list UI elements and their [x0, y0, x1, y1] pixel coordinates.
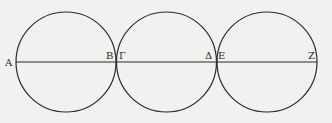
label-delta: Δ: [205, 50, 212, 61]
label-a: A: [4, 57, 13, 68]
label-b: B: [106, 50, 113, 61]
label-e: E: [218, 50, 225, 61]
geometry-diagram: A B Γ Δ E Z: [0, 0, 332, 123]
label-gamma: Γ: [119, 50, 126, 61]
label-z: Z: [308, 50, 315, 61]
